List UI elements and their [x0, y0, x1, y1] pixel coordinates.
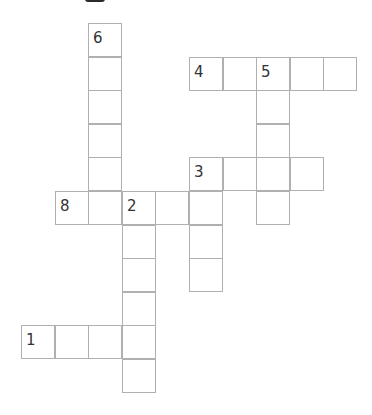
crossword-cell[interactable]: 6 — [88, 23, 122, 57]
crossword-cell[interactable] — [290, 157, 324, 191]
crossword-cell[interactable] — [223, 57, 257, 91]
crossword-cell[interactable]: 5 — [256, 57, 290, 91]
crossword-cell[interactable] — [189, 258, 223, 292]
crossword-cell[interactable] — [88, 191, 122, 225]
crossword-cell[interactable]: 1 — [21, 325, 55, 359]
crossword-cell[interactable] — [256, 191, 290, 225]
crossword-cell[interactable] — [323, 57, 357, 91]
crossword-cell[interactable] — [155, 191, 189, 225]
crossword-cell[interactable] — [88, 124, 122, 158]
crossword-cell[interactable]: 4 — [189, 57, 223, 91]
crossword-cell[interactable] — [122, 292, 156, 326]
crossword-cell[interactable] — [189, 225, 223, 259]
crossword-cell[interactable] — [122, 325, 156, 359]
clue-number: 8 — [60, 199, 70, 214]
clue-number: 3 — [194, 165, 204, 180]
crossword-cell[interactable]: 8 — [55, 191, 89, 225]
crossword-cell[interactable]: 3 — [189, 157, 223, 191]
clue-number: 4 — [194, 65, 204, 80]
crossword-cell[interactable] — [88, 157, 122, 191]
crossword-cell[interactable]: 2 — [122, 191, 156, 225]
crossword-cell[interactable] — [55, 325, 89, 359]
clue-number: 6 — [93, 31, 103, 46]
crossword-cell[interactable] — [88, 325, 122, 359]
clue-number: 1 — [26, 333, 36, 348]
crossword-grid: 6453821 — [0, 0, 372, 415]
crossword-cell[interactable] — [256, 157, 290, 191]
crossword-cell[interactable] — [189, 191, 223, 225]
crossword-cell[interactable] — [290, 57, 324, 91]
crossword-cell[interactable] — [88, 90, 122, 124]
crossword-cell[interactable] — [122, 359, 156, 393]
clue-number: 2 — [127, 199, 137, 214]
crossword-cell[interactable] — [256, 124, 290, 158]
clue-number: 5 — [261, 65, 271, 80]
crossword-cell[interactable] — [88, 57, 122, 91]
crossword-cell[interactable] — [122, 225, 156, 259]
crossword-cell[interactable] — [223, 157, 257, 191]
crossword-cell[interactable] — [122, 258, 156, 292]
crossword-cell[interactable] — [256, 90, 290, 124]
